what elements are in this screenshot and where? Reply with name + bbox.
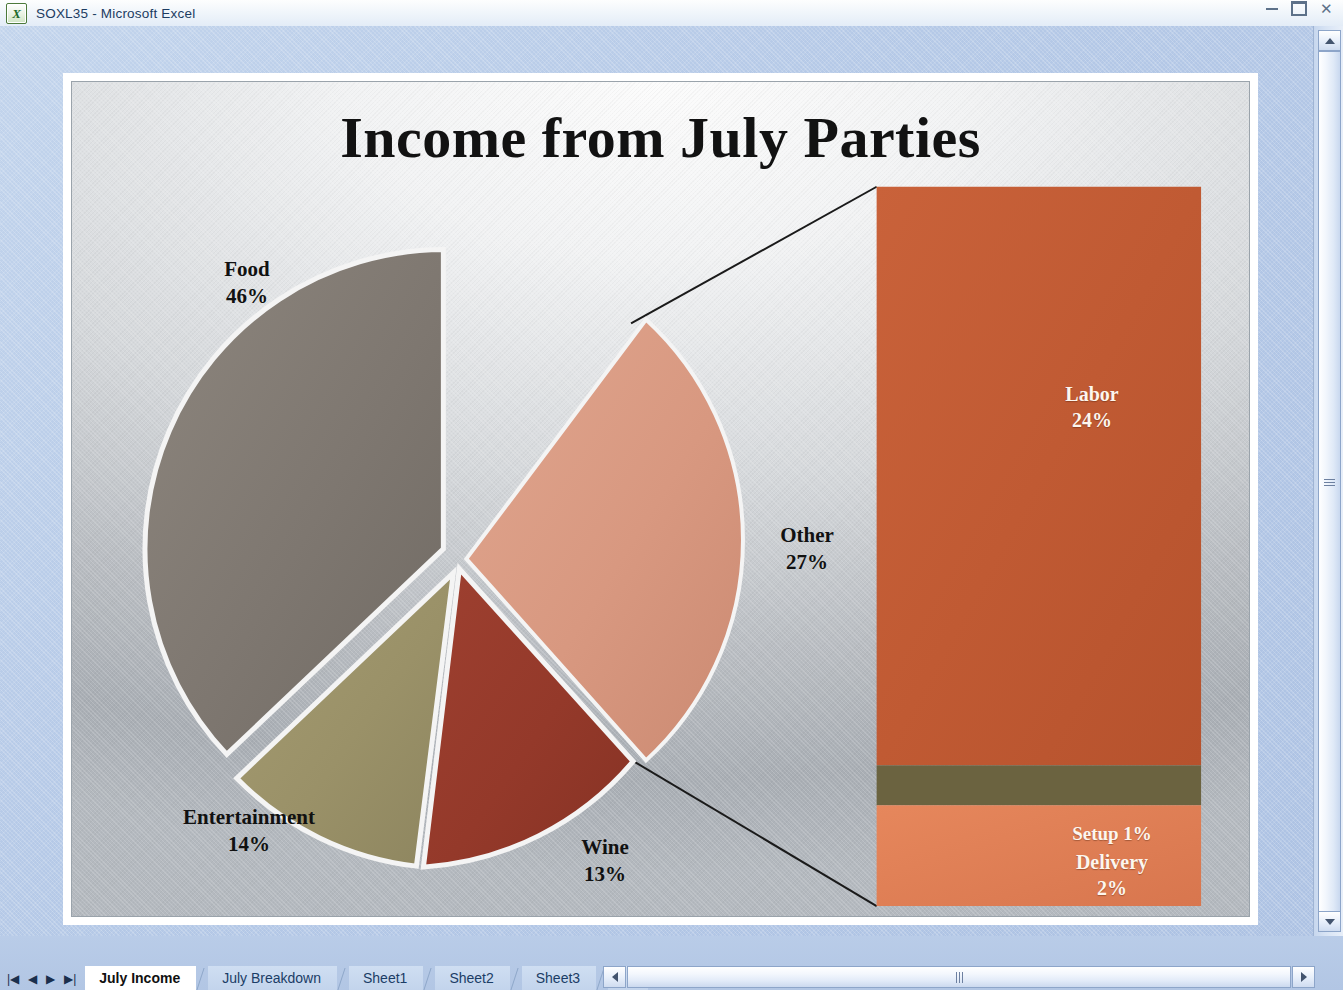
sheet-tab-sheet2[interactable]: Sheet2 (435, 966, 509, 990)
scroll-left-icon[interactable] (603, 966, 626, 988)
data-label-labor: Labor 24% (1002, 382, 1182, 433)
data-label-entertainment-name: Entertainment (183, 805, 315, 829)
data-label-delivery-name: Delivery (1076, 851, 1148, 873)
first-sheet-icon[interactable]: |◀ (7, 973, 19, 985)
sheet-tab-row: |◀ ◀ ▶ ▶| July Income July Breakdown She… (0, 964, 1343, 990)
tab-separator (423, 966, 435, 990)
chart-plot-area[interactable]: Income from July Parties (71, 81, 1250, 917)
sheet-tab-sheet1[interactable]: Sheet1 (349, 966, 423, 990)
bar-segment-labor (877, 187, 1201, 766)
worksheet-surface[interactable]: Income from July Parties (0, 26, 1314, 936)
data-label-wine-name: Wine (581, 835, 628, 859)
secondary-stacked-bar (877, 187, 1201, 906)
window-title: SOXL35 - Microsoft Excel (36, 6, 195, 21)
excel-icon-glyph: X (12, 6, 21, 22)
data-label-labor-pct: 24% (1002, 408, 1182, 434)
restore-button[interactable] (1291, 1, 1307, 16)
data-label-setup: Setup 1% (1002, 822, 1222, 846)
vertical-scrollbar-thumb[interactable] (1318, 51, 1341, 913)
minimize-button[interactable] (1266, 8, 1278, 10)
scroll-down-icon[interactable] (1318, 911, 1341, 932)
horizontal-scrollbar[interactable] (603, 965, 1315, 989)
data-label-entertainment-pct: 14% (134, 831, 364, 858)
data-label-labor-name: Labor (1065, 383, 1118, 405)
data-label-delivery-pct: 2% (1002, 876, 1222, 902)
data-label-food: Food 46% (172, 256, 322, 310)
vertical-scrollbar[interactable] (1313, 26, 1343, 936)
next-sheet-icon[interactable]: ▶ (46, 973, 55, 985)
data-label-other-pct: 27% (732, 549, 882, 576)
scroll-right-icon[interactable] (1292, 966, 1315, 988)
tab-separator (196, 966, 208, 990)
data-label-other-name: Other (780, 523, 834, 547)
last-sheet-icon[interactable]: ▶| (64, 973, 76, 985)
chart-title: Income from July Parties (72, 104, 1249, 171)
horizontal-scrollbar-thumb[interactable] (627, 966, 1291, 988)
data-label-wine: Wine 13% (530, 834, 680, 888)
bar-segment-setup (877, 765, 1201, 805)
sheet-tab-july-income[interactable]: July Income (85, 966, 196, 990)
tab-separator (337, 966, 349, 990)
data-label-delivery: Delivery 2% (1002, 850, 1222, 901)
excel-window: X SOXL35 - Microsoft Excel ✕ Income from… (0, 0, 1343, 990)
sheet-tab-sheet3[interactable]: Sheet3 (522, 966, 596, 990)
tab-separator (510, 966, 522, 990)
title-bar: X SOXL35 - Microsoft Excel ✕ (0, 0, 1343, 26)
bar-of-pie-graphic (72, 82, 1249, 916)
data-label-food-name: Food (224, 257, 270, 281)
data-label-food-pct: 46% (172, 283, 322, 310)
scroll-up-icon[interactable] (1318, 30, 1341, 51)
data-label-other: Other 27% (732, 522, 882, 576)
chart-object[interactable]: Income from July Parties (64, 74, 1257, 924)
excel-app-icon[interactable]: X (6, 3, 27, 24)
close-icon[interactable]: ✕ (1320, 1, 1333, 16)
sheet-tab-july-breakdown[interactable]: July Breakdown (208, 966, 337, 990)
bottom-bar: |◀ ◀ ▶ ▶| July Income July Breakdown She… (0, 936, 1343, 990)
sheet-tab-navigation: |◀ ◀ ▶ ▶| (0, 973, 85, 990)
data-label-wine-pct: 13% (530, 861, 680, 888)
window-controls: ✕ (1266, 1, 1333, 16)
data-label-entertainment: Entertainment 14% (134, 804, 364, 858)
previous-sheet-icon[interactable]: ◀ (28, 973, 37, 985)
